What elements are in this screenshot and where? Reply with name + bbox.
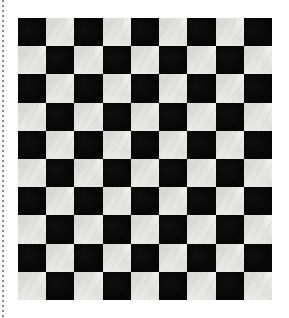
checker-cell-dark	[244, 74, 272, 102]
checker-cell-light	[18, 215, 46, 243]
checker-cell-light	[216, 74, 244, 102]
checker-cell-dark	[216, 159, 244, 187]
checker-cell-light	[74, 215, 102, 243]
checker-cell-dark	[46, 46, 74, 74]
checker-cell-light	[216, 18, 244, 46]
checker-cell-dark	[18, 18, 46, 46]
checker-cell-light	[187, 103, 215, 131]
checker-cell-light	[103, 131, 131, 159]
checker-cell-dark	[216, 103, 244, 131]
checker-cell-light	[244, 272, 272, 300]
checker-cell-dark	[103, 159, 131, 187]
checker-cell-light	[46, 244, 74, 272]
checker-cell-light	[18, 272, 46, 300]
checker-cell-dark	[187, 244, 215, 272]
checker-cell-light	[18, 103, 46, 131]
checker-cell-dark	[187, 131, 215, 159]
checker-cell-dark	[244, 244, 272, 272]
checker-cell-dark	[244, 131, 272, 159]
checker-cell-light	[131, 46, 159, 74]
checker-cell-light	[216, 131, 244, 159]
checker-cell-dark	[18, 74, 46, 102]
checker-cell-light	[103, 18, 131, 46]
checker-cell-light	[244, 103, 272, 131]
checker-cell-light	[244, 159, 272, 187]
checker-cell-light	[131, 272, 159, 300]
checker-cell-dark	[159, 103, 187, 131]
image-canvas	[0, 0, 289, 318]
checker-cell-light	[46, 131, 74, 159]
checker-cell-dark	[216, 46, 244, 74]
checker-cell-light	[216, 244, 244, 272]
checker-cell-light	[159, 18, 187, 46]
checker-cell-dark	[216, 215, 244, 243]
checker-cell-dark	[131, 187, 159, 215]
checker-cell-dark	[74, 131, 102, 159]
checker-cell-dark	[46, 159, 74, 187]
checker-cell-dark	[131, 244, 159, 272]
checker-cell-dark	[18, 187, 46, 215]
checker-cell-dark	[244, 187, 272, 215]
dotted-guide-line	[2, 0, 4, 318]
checker-cell-light	[159, 187, 187, 215]
checker-cell-dark	[46, 215, 74, 243]
checker-cell-light	[244, 46, 272, 74]
checker-cell-dark	[244, 18, 272, 46]
checker-cell-dark	[74, 244, 102, 272]
checker-cell-dark	[74, 18, 102, 46]
checker-cell-dark	[187, 18, 215, 46]
checkerboard-pattern	[18, 18, 272, 300]
checker-cell-light	[46, 18, 74, 46]
checker-cell-light	[187, 272, 215, 300]
checker-cell-dark	[131, 18, 159, 46]
checker-cell-light	[46, 74, 74, 102]
checker-cell-dark	[103, 46, 131, 74]
checker-cell-light	[187, 46, 215, 74]
checker-cell-dark	[159, 215, 187, 243]
checker-cell-light	[103, 244, 131, 272]
checker-cell-light	[103, 187, 131, 215]
checker-cell-light	[216, 187, 244, 215]
checker-cell-dark	[46, 103, 74, 131]
checker-cell-light	[187, 159, 215, 187]
checker-cell-light	[131, 103, 159, 131]
checker-cell-dark	[131, 74, 159, 102]
checker-cell-light	[74, 159, 102, 187]
checker-cell-light	[159, 131, 187, 159]
checker-cell-light	[74, 103, 102, 131]
checker-cell-dark	[18, 244, 46, 272]
checker-cell-light	[159, 74, 187, 102]
checker-cell-dark	[187, 187, 215, 215]
checker-cell-light	[131, 159, 159, 187]
checker-cell-light	[18, 159, 46, 187]
checker-cell-light	[18, 46, 46, 74]
checker-cell-light	[103, 74, 131, 102]
checker-cell-dark	[159, 159, 187, 187]
checker-cell-dark	[187, 74, 215, 102]
checker-cell-light	[244, 215, 272, 243]
checker-cell-dark	[74, 74, 102, 102]
checker-cell-dark	[131, 131, 159, 159]
checker-cell-dark	[159, 46, 187, 74]
checker-cell-dark	[18, 131, 46, 159]
checker-cell-dark	[46, 272, 74, 300]
checker-cell-dark	[103, 272, 131, 300]
checker-cell-light	[187, 215, 215, 243]
checker-cell-light	[46, 187, 74, 215]
checker-cell-light	[74, 272, 102, 300]
checker-cell-dark	[216, 272, 244, 300]
checker-cell-dark	[159, 272, 187, 300]
checker-cell-dark	[74, 187, 102, 215]
checker-cell-dark	[103, 215, 131, 243]
checker-cell-dark	[103, 103, 131, 131]
checker-cell-light	[159, 244, 187, 272]
checker-cell-light	[74, 46, 102, 74]
checker-cell-light	[131, 215, 159, 243]
